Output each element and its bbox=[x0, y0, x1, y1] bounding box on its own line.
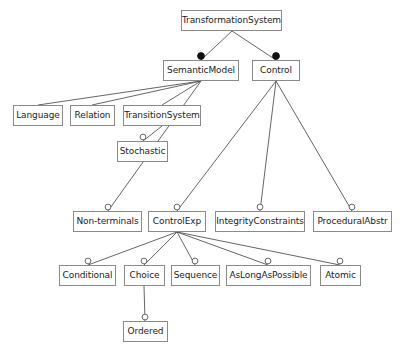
class-node-label: Ordered bbox=[127, 327, 165, 336]
class-node-label: ControlExp bbox=[152, 217, 202, 226]
class-node-ordered[interactable]: Ordered bbox=[123, 321, 168, 342]
class-node-label: AsLongAsPossible bbox=[228, 271, 308, 280]
class-node-label: TransitionSystem bbox=[123, 111, 201, 120]
class-node-proceduralabstr[interactable]: ProceduralAbstr bbox=[313, 211, 392, 232]
class-node-language[interactable]: Language bbox=[13, 105, 63, 126]
class-node-aslongaspossible[interactable]: AsLongAsPossible bbox=[226, 265, 311, 286]
class-node-sequence[interactable]: Sequence bbox=[171, 265, 220, 286]
class-node-label: Atomic bbox=[324, 271, 357, 280]
class-node-integrityconstraints[interactable]: IntegrityConstraints bbox=[215, 211, 305, 232]
class-node-conditional[interactable]: Conditional bbox=[59, 265, 116, 286]
class-node-label: Control bbox=[259, 66, 293, 75]
class-node-semanticmodel[interactable]: SemanticModel bbox=[163, 60, 239, 81]
class-node-relation[interactable]: Relation bbox=[70, 105, 115, 126]
class-node-label: SemanticModel bbox=[166, 66, 236, 75]
class-node-label: Non-terminals bbox=[75, 217, 139, 226]
class-node-label: ProceduralAbstr bbox=[316, 217, 388, 226]
class-node-control[interactable]: Control bbox=[252, 60, 300, 81]
class-node-label: Choice bbox=[129, 271, 161, 280]
class-node-label: TransformationSystem bbox=[181, 16, 282, 25]
class-node-label: Conditional bbox=[62, 271, 114, 280]
class-node-non-terminals[interactable]: Non-terminals bbox=[73, 211, 142, 232]
class-node-label: Language bbox=[15, 111, 61, 120]
class-node-label: IntegrityConstraints bbox=[215, 217, 305, 226]
class-node-label: Sequence bbox=[173, 271, 219, 280]
class-node-atomic[interactable]: Atomic bbox=[320, 265, 361, 286]
class-node-controlexp[interactable]: ControlExp bbox=[148, 211, 206, 232]
class-node-label: Stochastic bbox=[119, 147, 167, 156]
class-diagram-canvas: TransformationSystemSemanticModelControl… bbox=[0, 0, 400, 353]
class-node-stochastic[interactable]: Stochastic bbox=[117, 141, 168, 162]
node-layer: TransformationSystemSemanticModelControl… bbox=[0, 0, 400, 353]
class-node-choice[interactable]: Choice bbox=[124, 265, 165, 286]
class-node-transitionsystem[interactable]: TransitionSystem bbox=[123, 105, 201, 126]
class-node-transformationsystem[interactable]: TransformationSystem bbox=[181, 10, 282, 31]
class-node-label: Relation bbox=[74, 111, 112, 120]
